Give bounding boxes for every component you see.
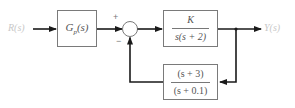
fraction-bar	[171, 82, 211, 83]
feedback-block: (s + 3) (s + 0.1)	[163, 64, 218, 100]
fraction-bar	[172, 28, 209, 29]
minus-sign: −	[116, 36, 121, 46]
feedback-numerator: (s + 3)	[174, 68, 206, 80]
forward-block: K s(s + 2)	[163, 10, 218, 47]
forward-denominator: s(s + 2)	[172, 31, 209, 43]
feedback-transfer-function: (s + 3) (s + 0.1)	[171, 68, 211, 97]
prefilter-transfer-function: Gp(s)	[65, 21, 88, 36]
forward-transfer-function: K s(s + 2)	[172, 14, 209, 43]
feedback-denominator: (s + 0.1)	[171, 85, 211, 97]
prefilter-block: Gp(s)	[57, 10, 97, 47]
plus-sign: +	[113, 12, 118, 22]
summing-junction	[123, 22, 138, 37]
prefilter-argument: (s)	[77, 21, 89, 33]
block-diagram: R(s) Gp(s) + − K s(s + 2) Y(s) (s + 3) (…	[0, 0, 295, 108]
input-signal-label: R(s)	[8, 22, 25, 33]
output-signal-label: Y(s)	[264, 22, 280, 33]
signal-wires	[0, 0, 295, 108]
feedback-to-sum-arrow	[130, 38, 163, 83]
forward-numerator: K	[184, 14, 197, 26]
feedback-down-arrow	[220, 29, 236, 82]
